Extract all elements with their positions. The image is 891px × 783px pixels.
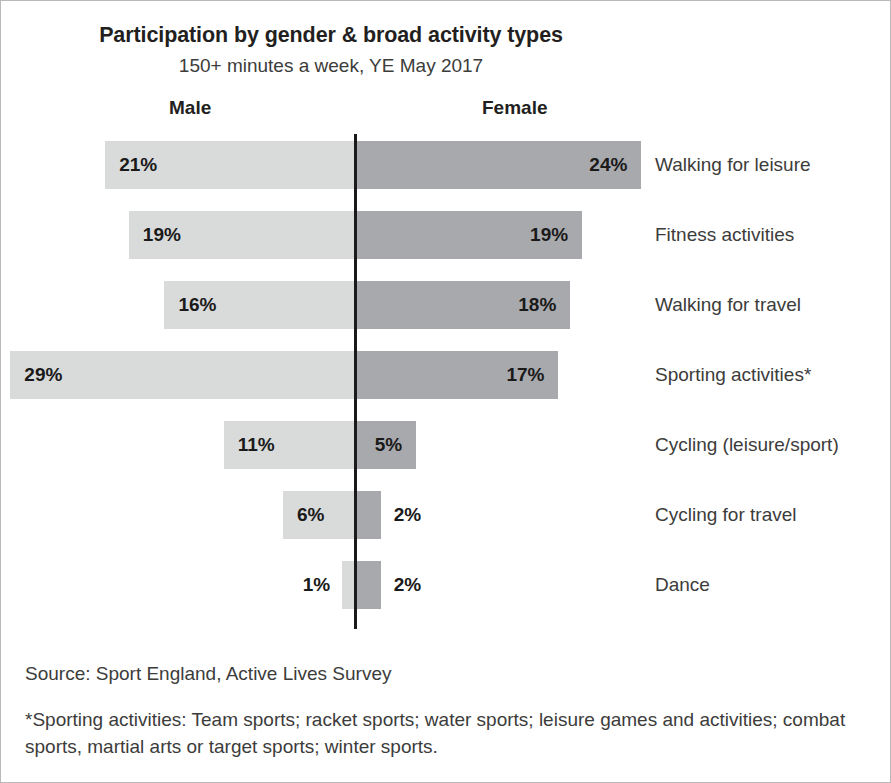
bar-female bbox=[357, 561, 381, 609]
category-label: Walking for travel bbox=[655, 281, 801, 329]
chart-row: 21%24%Walking for leisure bbox=[1, 141, 891, 189]
bar-value-female: 2% bbox=[394, 491, 421, 539]
chart-row: 29%17%Sporting activities* bbox=[1, 351, 891, 399]
bar-value-male: 6% bbox=[297, 491, 324, 539]
legend-label-female: Female bbox=[482, 97, 547, 119]
bar-value-male: 19% bbox=[143, 211, 181, 259]
legend-label-male: Male bbox=[169, 97, 211, 119]
bar-value-female: 2% bbox=[394, 561, 421, 609]
bar-value-male: 21% bbox=[119, 141, 157, 189]
chart-row: 11%5%Cycling (leisure/sport) bbox=[1, 421, 891, 469]
chart-subtitle: 150+ minutes a week, YE May 2017 bbox=[1, 55, 661, 78]
bar-value-female: 24% bbox=[357, 141, 627, 189]
center-axis-line bbox=[354, 134, 357, 629]
chart-title: Participation by gender & broad activity… bbox=[1, 23, 661, 49]
plot-area: 21%24%Walking for leisure19%19%Fitness a… bbox=[1, 134, 891, 644]
category-label: Dance bbox=[655, 561, 710, 609]
footnote-note: *Sporting activities: Team sports; racke… bbox=[25, 707, 870, 761]
category-label: Sporting activities* bbox=[655, 351, 811, 399]
chart-row: 1%2%Dance bbox=[1, 561, 891, 609]
bar-value-female: 19% bbox=[357, 211, 568, 259]
chart-row: 16%18%Walking for travel bbox=[1, 281, 891, 329]
bar-value-male: 16% bbox=[178, 281, 216, 329]
source-note: Source: Sport England, Active Lives Surv… bbox=[25, 663, 391, 685]
chart-row: 6%2%Cycling for travel bbox=[1, 491, 891, 539]
chart-figure: Participation by gender & broad activity… bbox=[0, 0, 891, 783]
chart-row: 19%19%Fitness activities bbox=[1, 211, 891, 259]
category-label: Fitness activities bbox=[655, 211, 794, 259]
category-label: Walking for leisure bbox=[655, 141, 811, 189]
bar-value-male: 1% bbox=[303, 561, 330, 609]
bar-male bbox=[342, 561, 354, 609]
bar-value-female: 18% bbox=[357, 281, 556, 329]
bar-value-female: 17% bbox=[357, 351, 544, 399]
bar-value-male: 29% bbox=[24, 351, 62, 399]
bar-value-male: 11% bbox=[238, 421, 275, 469]
bar-female bbox=[357, 491, 381, 539]
category-label: Cycling (leisure/sport) bbox=[655, 421, 839, 469]
chart-header: Participation by gender & broad activity… bbox=[1, 23, 661, 78]
bar-value-female: 5% bbox=[357, 421, 402, 469]
category-label: Cycling for travel bbox=[655, 491, 797, 539]
